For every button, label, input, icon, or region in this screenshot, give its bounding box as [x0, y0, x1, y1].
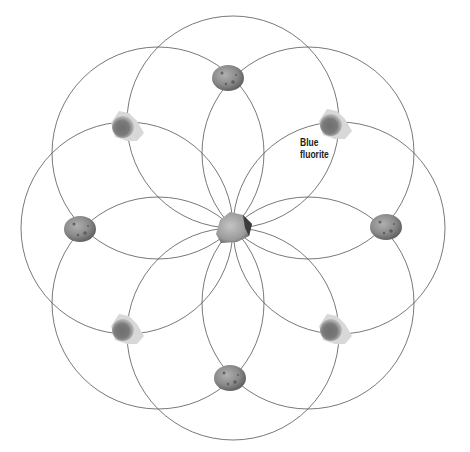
grid-circle — [233, 122, 445, 334]
tumbled-bottom-icon — [214, 365, 246, 391]
tumbled-left-icon — [64, 216, 96, 242]
grid-circle — [127, 228, 339, 440]
stone-label: Bluefluorite — [300, 137, 329, 161]
fluorite-bottom-left-icon — [111, 314, 144, 344]
stone-label-line1: Blue — [300, 137, 329, 149]
grid-circle — [127, 16, 339, 228]
grid-stones — [64, 65, 402, 391]
fluorite-top-left-icon — [111, 111, 144, 141]
tumbled-right-icon — [370, 214, 402, 240]
stone-label-line2: fluorite — [300, 149, 329, 161]
crystal-grid-diagram — [0, 0, 470, 452]
fluorite-bottom-right-icon — [319, 314, 352, 344]
grid-circle — [21, 122, 233, 334]
tumbled-top-icon — [212, 65, 244, 91]
fluorite-top-right-icon — [319, 109, 352, 139]
